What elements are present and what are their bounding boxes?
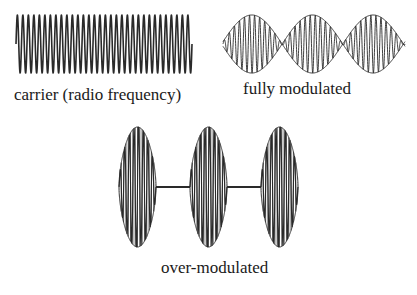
fully-modulated-waveform	[223, 15, 405, 73]
fully-modulated-label: fully modulated	[243, 80, 351, 97]
over-modulated-label: over-modulated	[161, 259, 268, 276]
carrier-waveform	[16, 15, 192, 73]
over-modulated-waveform	[119, 127, 298, 247]
waveform-diagram	[0, 0, 417, 295]
carrier-label: carrier (radio frequency)	[14, 86, 181, 103]
